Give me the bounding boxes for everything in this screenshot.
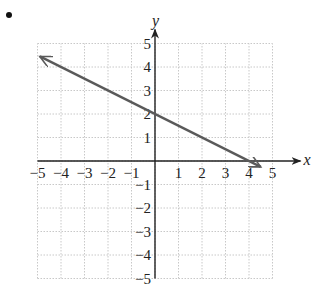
coordinate-plane: −5−4−3−2−112345−5−4−3−2−112345 x y bbox=[0, 0, 312, 297]
x-tick-label: 5 bbox=[269, 165, 277, 181]
y-tick-label: −1 bbox=[135, 177, 151, 193]
x-tick-label: 1 bbox=[175, 165, 183, 181]
y-tick-label: −2 bbox=[135, 200, 151, 216]
y-tick-label: 1 bbox=[144, 130, 152, 146]
y-tick-label: 5 bbox=[144, 36, 152, 52]
x-axis-label: x bbox=[303, 151, 311, 168]
y-tick-label: 3 bbox=[144, 83, 152, 99]
x-tick-label: −5 bbox=[30, 165, 46, 181]
x-tick-label: −4 bbox=[53, 165, 69, 181]
y-tick-label: −4 bbox=[135, 247, 151, 263]
x-tick-label: 4 bbox=[245, 165, 253, 181]
x-tick-label: 3 bbox=[222, 165, 230, 181]
y-tick-label: −5 bbox=[135, 271, 151, 287]
x-tick-label: 2 bbox=[198, 165, 206, 181]
x-tick-label: −2 bbox=[100, 165, 116, 181]
y-axis-label: y bbox=[150, 12, 160, 30]
x-tick-label: −3 bbox=[77, 165, 93, 181]
y-tick-label: 4 bbox=[144, 59, 152, 75]
y-tick-label: −3 bbox=[135, 224, 151, 240]
